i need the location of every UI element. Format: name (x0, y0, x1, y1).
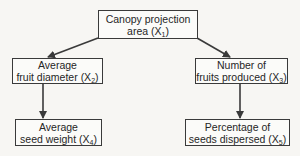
node-label-suffix: ) (283, 133, 287, 145)
arrow-x1-to-x3 (197, 38, 230, 57)
node-label-line1: Canopy projection (106, 13, 191, 25)
node-label-text: seeds dispersed (X (189, 133, 279, 145)
node-label-text: fruit diameter (X (16, 71, 91, 83)
node-label-text: seed weight (X (20, 133, 89, 145)
node-canopy-projection-area: Canopy projection area (X1) (98, 10, 198, 39)
node-label-suffix: ) (95, 71, 99, 83)
node-label-line1: Average (38, 59, 77, 71)
node-label-line2: fruits produced (X3) (196, 71, 286, 83)
node-label-text: fruits produced (X (196, 71, 279, 83)
node-label-suffix: ) (93, 133, 97, 145)
node-label-line1: Average (39, 121, 78, 133)
node-label-text: area (X (127, 25, 161, 37)
arrow-x1-to-x2 (48, 38, 98, 57)
node-label-suffix: ) (165, 25, 169, 37)
node-label-line2: area (X1) (127, 25, 169, 37)
node-label-line1: Percentage of (205, 121, 270, 133)
node-label-line2: fruit diameter (X2) (16, 71, 98, 83)
node-number-of-fruits-produced: Number of fruits produced (X3) (195, 58, 288, 84)
node-label-line2: seed weight (X4) (20, 133, 97, 145)
node-average-fruit-diameter: Average fruit diameter (X2) (12, 58, 103, 84)
node-label-line1: Number of (217, 59, 266, 71)
node-average-seed-weight: Average seed weight (X4) (15, 119, 102, 146)
node-percentage-seeds-dispersed: Percentage of seeds dispersed (X5) (185, 119, 290, 146)
node-label-suffix: ) (283, 71, 287, 83)
node-label-line2: seeds dispersed (X5) (189, 133, 286, 145)
